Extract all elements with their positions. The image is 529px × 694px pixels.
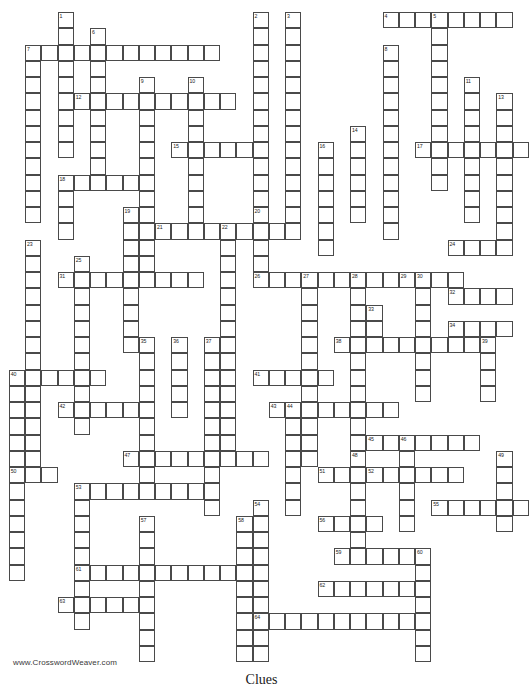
crossword-cell[interactable]	[464, 240, 480, 256]
crossword-cell[interactable]	[123, 240, 139, 256]
crossword-cell[interactable]	[350, 288, 366, 304]
crossword-cell[interactable]	[464, 321, 480, 337]
crossword-cell[interactable]	[236, 223, 252, 239]
crossword-cell[interactable]	[74, 305, 90, 321]
crossword-cell[interactable]	[399, 500, 415, 516]
crossword-cell[interactable]	[285, 110, 301, 126]
crossword-cell[interactable]	[285, 142, 301, 158]
crossword-cell[interactable]	[301, 613, 317, 629]
crossword-cell[interactable]	[220, 272, 236, 288]
crossword-cell[interactable]	[431, 158, 447, 174]
crossword-cell[interactable]	[9, 435, 25, 451]
crossword-cell[interactable]	[204, 386, 220, 402]
crossword-cell[interactable]	[139, 581, 155, 597]
crossword-cell[interactable]	[253, 142, 269, 158]
crossword-cell[interactable]	[285, 418, 301, 434]
crossword-cell[interactable]	[204, 370, 220, 386]
crossword-cell[interactable]	[188, 158, 204, 174]
crossword-cell[interactable]	[253, 191, 269, 207]
crossword-cell[interactable]	[220, 240, 236, 256]
crossword-cell[interactable]	[253, 646, 269, 662]
crossword-cell[interactable]	[480, 370, 496, 386]
crossword-cell-43[interactable]: 43	[269, 402, 285, 418]
crossword-cell[interactable]	[74, 597, 90, 613]
crossword-cell-28[interactable]: 28	[350, 272, 366, 288]
crossword-cell[interactable]	[285, 451, 301, 467]
crossword-cell[interactable]	[350, 548, 366, 564]
crossword-cell-56[interactable]: 56	[318, 516, 334, 532]
crossword-cell[interactable]	[74, 272, 90, 288]
crossword-cell[interactable]	[399, 613, 415, 629]
crossword-cell[interactable]	[106, 402, 122, 418]
crossword-cell[interactable]	[301, 321, 317, 337]
crossword-cell[interactable]	[448, 467, 464, 483]
crossword-cell[interactable]	[139, 191, 155, 207]
crossword-cell[interactable]	[25, 191, 41, 207]
crossword-cell[interactable]	[171, 483, 187, 499]
crossword-cell[interactable]	[285, 175, 301, 191]
crossword-cell[interactable]	[188, 110, 204, 126]
crossword-cell[interactable]	[350, 467, 366, 483]
crossword-cell[interactable]	[74, 386, 90, 402]
crossword-cell[interactable]	[25, 305, 41, 321]
crossword-cell[interactable]	[269, 272, 285, 288]
crossword-cell[interactable]	[318, 613, 334, 629]
crossword-cell[interactable]	[106, 93, 122, 109]
crossword-cell[interactable]	[220, 386, 236, 402]
crossword-cell[interactable]	[415, 370, 431, 386]
crossword-cell[interactable]	[366, 613, 382, 629]
crossword-cell[interactable]	[383, 175, 399, 191]
crossword-cell[interactable]	[334, 516, 350, 532]
crossword-cell[interactable]	[366, 516, 382, 532]
crossword-cell[interactable]	[58, 93, 74, 109]
crossword-cell[interactable]	[253, 516, 269, 532]
crossword-cell-22[interactable]: 22	[220, 223, 236, 239]
crossword-cell[interactable]	[513, 500, 529, 516]
crossword-cell[interactable]	[383, 223, 399, 239]
crossword-cell[interactable]	[220, 418, 236, 434]
crossword-cell[interactable]	[253, 597, 269, 613]
crossword-cell-2[interactable]: 2	[253, 12, 269, 28]
crossword-cell[interactable]	[236, 142, 252, 158]
crossword-cell[interactable]	[25, 288, 41, 304]
crossword-cell[interactable]	[383, 158, 399, 174]
crossword-cell[interactable]	[139, 548, 155, 564]
crossword-cell[interactable]	[74, 516, 90, 532]
crossword-cell[interactable]	[188, 223, 204, 239]
crossword-cell[interactable]	[139, 613, 155, 629]
crossword-cell[interactable]	[220, 451, 236, 467]
crossword-cell[interactable]	[58, 370, 74, 386]
crossword-cell[interactable]	[25, 353, 41, 369]
crossword-cell[interactable]	[58, 77, 74, 93]
crossword-cell[interactable]	[220, 256, 236, 272]
crossword-cell[interactable]	[220, 353, 236, 369]
crossword-cell[interactable]	[496, 207, 512, 223]
crossword-cell[interactable]	[366, 548, 382, 564]
crossword-cell[interactable]	[123, 337, 139, 353]
crossword-cell[interactable]	[285, 45, 301, 61]
crossword-cell[interactable]	[123, 93, 139, 109]
crossword-cell[interactable]	[58, 28, 74, 44]
crossword-cell[interactable]	[58, 45, 74, 61]
crossword-cell[interactable]	[171, 272, 187, 288]
crossword-cell[interactable]	[171, 402, 187, 418]
crossword-cell[interactable]	[366, 272, 382, 288]
crossword-cell[interactable]	[25, 386, 41, 402]
crossword-cell[interactable]	[334, 581, 350, 597]
crossword-cell[interactable]	[301, 337, 317, 353]
crossword-cell[interactable]	[496, 12, 512, 28]
crossword-cell[interactable]	[253, 630, 269, 646]
crossword-cell[interactable]	[496, 288, 512, 304]
crossword-cell[interactable]	[415, 386, 431, 402]
crossword-cell[interactable]	[74, 581, 90, 597]
crossword-cell[interactable]	[139, 418, 155, 434]
crossword-cell-30[interactable]: 30	[415, 272, 431, 288]
crossword-cell[interactable]	[236, 565, 252, 581]
crossword-cell[interactable]	[415, 597, 431, 613]
crossword-cell[interactable]	[123, 321, 139, 337]
crossword-cell[interactable]	[25, 175, 41, 191]
crossword-cell[interactable]	[188, 272, 204, 288]
crossword-cell[interactable]	[285, 483, 301, 499]
crossword-cell[interactable]	[285, 613, 301, 629]
crossword-cell[interactable]	[350, 207, 366, 223]
